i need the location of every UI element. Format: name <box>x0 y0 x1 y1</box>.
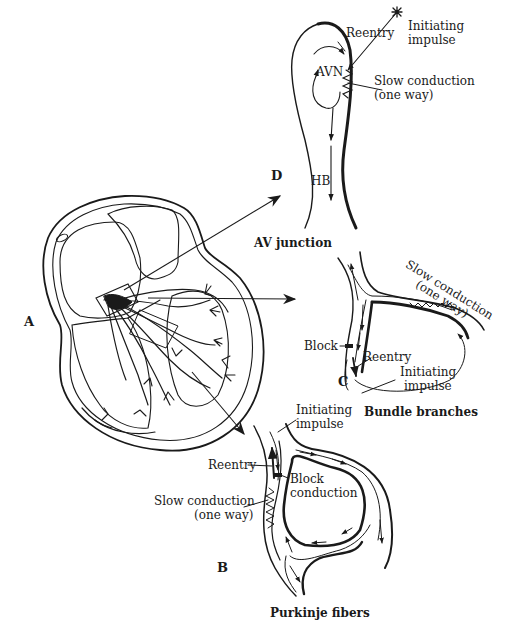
label-c-block: Block <box>304 340 338 353</box>
label-b-block-1: Block <box>290 473 324 486</box>
label-c-initiating-1: Initiating <box>400 366 456 379</box>
purkinje-fibers-illustration <box>244 420 392 596</box>
label-c-initiating-2: impulse <box>404 380 452 393</box>
label-d-avn: AVN <box>316 66 343 79</box>
label-b-initiating-2: impulse <box>296 418 344 431</box>
reentry-diagram: A D C B AV junction Bundle branches Purk… <box>0 0 509 632</box>
arrow-to-c <box>148 298 295 299</box>
av-junction-illustration <box>292 7 402 228</box>
label-d-initiating-2: impulse <box>408 34 456 47</box>
label-d-initiating-1: Initiating <box>408 20 464 33</box>
label-b-initiating-1: Initiating <box>296 404 352 417</box>
panel-letter-d: D <box>271 168 282 183</box>
label-b-slow-1: Slow conduction <box>154 495 255 508</box>
caption-purkinje-fibers: Purkinje fibers <box>270 606 370 620</box>
panel-letter-a: A <box>24 314 34 329</box>
label-d-hb: HB <box>311 175 330 188</box>
label-b-slow-2: (one way) <box>194 509 253 522</box>
label-d-slow-2: (one way) <box>374 89 433 102</box>
caption-bundle-branches: Bundle branches <box>364 405 478 419</box>
label-d-slow-1: Slow conduction <box>374 75 475 88</box>
label-c-reentry: Reentry <box>363 351 411 364</box>
label-b-block-2: conduction <box>290 487 357 500</box>
panel-letter-c: C <box>338 374 348 389</box>
label-d-reentry: Reentry <box>346 27 394 40</box>
heart-illustration <box>43 196 263 451</box>
arrow-to-b <box>192 372 244 434</box>
pointer-arrows <box>124 196 295 434</box>
panel-letter-b: B <box>217 560 228 575</box>
caption-av-junction: AV junction <box>254 236 332 250</box>
label-b-reentry: Reentry <box>208 459 256 472</box>
